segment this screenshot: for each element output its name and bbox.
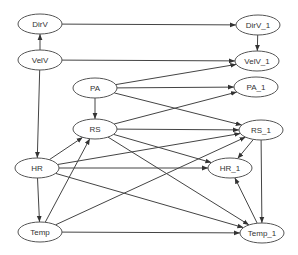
edge-rs-1-to-temp-1 <box>261 140 262 223</box>
edge-rs-to-hr-1 <box>114 134 212 162</box>
edge-velv-to-velv-1 <box>62 60 235 61</box>
node-pa: PA <box>73 78 117 98</box>
edge-rs-to-rs-1 <box>117 129 239 130</box>
edge-rs-1-to-hr-1 <box>238 139 254 158</box>
edges-layer <box>37 24 262 233</box>
node-dirv-1: DirV_1 <box>236 15 280 35</box>
node-rs-1: RS_1 <box>239 120 283 140</box>
node-velv-1: VelV_1 <box>235 51 279 71</box>
edge-temp-to-rs <box>45 139 90 223</box>
node-label: VelV_1 <box>244 57 270 66</box>
node-label: PA <box>90 84 101 93</box>
edge-pa-to-pa-1 <box>117 87 234 88</box>
node-hr: HR <box>15 158 59 178</box>
node-label: HR_1 <box>220 164 241 173</box>
node-label: DirV_1 <box>246 21 271 30</box>
edge-temp-to-temp-1 <box>62 232 240 233</box>
node-pa-1: PA_1 <box>234 77 278 97</box>
node-label: HR <box>31 164 43 173</box>
node-label: RS <box>89 125 100 134</box>
nodes-layer: DirVVelVPARSHRTempDirV_1VelV_1PA_1RS_1HR… <box>15 14 284 243</box>
edge-rs-to-temp-1 <box>108 137 249 225</box>
node-temp-1: Temp_1 <box>240 223 284 243</box>
node-label: DirV <box>32 20 48 29</box>
edge-velv-to-hr <box>37 70 39 158</box>
node-label: Temp_1 <box>248 229 277 238</box>
node-rs: RS <box>73 119 117 139</box>
edge-dirv-to-dirv-1 <box>62 24 236 25</box>
node-hr-1: HR_1 <box>208 158 252 178</box>
node-velv: VelV <box>18 50 62 70</box>
node-temp: Temp <box>18 222 62 242</box>
node-label: PA_1 <box>247 83 267 92</box>
node-label: RS_1 <box>251 126 272 135</box>
edge-hr-to-rs <box>49 137 82 159</box>
edge-pa-to-rs-1 <box>114 93 242 125</box>
edge-pa-to-velv-1 <box>116 64 237 84</box>
node-dirv: DirV <box>18 14 62 34</box>
node-label: Temp <box>30 228 50 237</box>
network-diagram: DirVVelVPARSHRTempDirV_1VelV_1PA_1RS_1HR… <box>0 0 298 255</box>
edge-hr-to-temp <box>38 178 40 222</box>
edge-temp-1-to-hr-1 <box>235 178 257 223</box>
node-label: VelV <box>32 56 49 65</box>
